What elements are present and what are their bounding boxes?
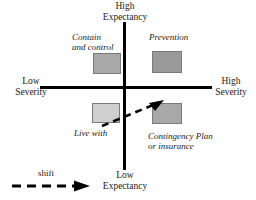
quadrant-caption-contain-and-control: Contain and control bbox=[72, 32, 113, 52]
quadrant-caption-contingency-plan: Contingency Plan or insurance bbox=[148, 131, 213, 151]
quadrant-caption-live-with-line1: Live with bbox=[74, 128, 107, 138]
axis-label-high-expectancy: High Expectancy bbox=[90, 1, 160, 22]
risk-box-contain-and-control bbox=[93, 53, 121, 74]
risk-box-live-with bbox=[92, 103, 120, 123]
axis-label-low-severity-line1: Low bbox=[6, 76, 56, 87]
risk-matrix-diagram: High Expectancy Low Expectancy Low Sever… bbox=[0, 0, 256, 200]
quadrant-caption-contingency-line1: Contingency Plan bbox=[148, 131, 213, 141]
quadrant-caption-contain-line2: and control bbox=[72, 42, 113, 52]
legend-shift-arrow-icon bbox=[10, 179, 100, 193]
horizontal-axis-severity bbox=[40, 86, 212, 89]
legend-arrow-head bbox=[74, 181, 90, 192]
risk-box-contingency-plan bbox=[152, 103, 182, 124]
axis-label-low-severity: Low Severity bbox=[6, 76, 56, 97]
risk-box-prevention bbox=[152, 51, 182, 73]
axis-label-high-severity: High Severity bbox=[207, 76, 255, 97]
quadrant-caption-contingency-line2: or insurance bbox=[148, 141, 213, 151]
legend: shift bbox=[10, 168, 102, 196]
axis-label-high-expectancy-line1: High bbox=[90, 1, 160, 12]
axis-label-high-expectancy-line2: Expectancy bbox=[90, 12, 160, 23]
vertical-axis-expectancy bbox=[123, 22, 126, 170]
quadrant-caption-prevention-line1: Prevention bbox=[149, 32, 188, 42]
axis-label-high-severity-line2: Severity bbox=[207, 87, 255, 98]
axis-label-low-severity-line2: Severity bbox=[6, 87, 56, 98]
legend-label-shift: shift bbox=[38, 168, 54, 178]
axis-label-high-severity-line1: High bbox=[207, 76, 255, 87]
quadrant-caption-live-with: Live with bbox=[74, 128, 107, 138]
quadrant-caption-contain-line1: Contain bbox=[72, 32, 113, 42]
quadrant-caption-prevention: Prevention bbox=[149, 32, 188, 42]
